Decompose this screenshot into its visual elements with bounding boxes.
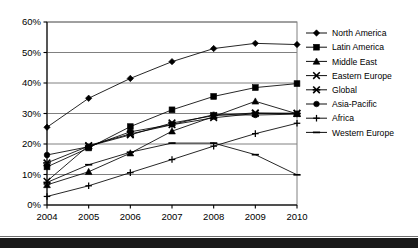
legend-label: Eastern Europe	[332, 71, 392, 81]
x-axis-tick-label: 2009	[245, 211, 266, 222]
data-point-marker	[44, 124, 50, 130]
legend-label: Global	[332, 85, 357, 95]
data-point-marker	[128, 129, 134, 135]
y-axis-tick-label: 10%	[22, 169, 42, 180]
data-point-marker	[313, 87, 321, 94]
data-point-marker	[314, 101, 320, 107]
legend-label: Asia-Pacific	[332, 99, 378, 109]
data-point-marker	[44, 193, 51, 200]
data-point-marker	[169, 156, 176, 163]
data-point-marker	[85, 95, 91, 101]
footer-divider	[0, 236, 418, 237]
legend-label: Latin America	[332, 42, 384, 52]
y-axis-tick-label: 60%	[22, 16, 42, 27]
data-point-marker	[127, 124, 133, 130]
line-chart-figure: 0%10%20%30%40%50%60% 2004200520062007200…	[0, 0, 418, 234]
chart-root: 0%10%20%30%40%50%60% 2004200520062007200…	[0, 0, 418, 248]
data-point-marker	[169, 122, 175, 128]
legend-item-latin-america[interactable]: Latin America	[306, 42, 384, 52]
y-axis-tick-label: 30%	[22, 108, 42, 119]
data-point-marker	[211, 112, 217, 118]
data-point-marker	[294, 41, 300, 47]
y-axis-tick-labels: 0%10%20%30%40%50%60%	[22, 16, 42, 210]
footer-bar	[0, 238, 418, 248]
series-line	[47, 113, 297, 163]
data-point-marker	[253, 112, 259, 118]
data-point-marker	[86, 144, 92, 150]
y-axis-tick-label: 20%	[22, 138, 42, 149]
legend-item-western-europe[interactable]: Western Europe	[306, 128, 394, 138]
legend-item-global[interactable]: Global	[306, 85, 357, 95]
legend-label: Western Europe	[332, 128, 394, 138]
x-axis-tick-label: 2005	[78, 211, 99, 222]
data-series-group	[43, 40, 301, 200]
y-axis-tick-label: 50%	[22, 47, 42, 58]
data-point-marker	[252, 130, 259, 137]
data-point-marker	[169, 107, 175, 113]
data-point-marker	[85, 182, 92, 189]
legend-item-north-america[interactable]: North America	[306, 28, 387, 38]
legend-item-asia-pacific[interactable]: Asia-Pacific	[306, 99, 378, 109]
x-axis-tick-label: 2006	[120, 211, 141, 222]
x-axis-tick-labels: 2004200520062007200820092010	[36, 211, 307, 222]
y-axis-tick-label: 40%	[22, 77, 42, 88]
legend-label: Africa	[332, 113, 354, 123]
series-north-america	[44, 40, 300, 130]
data-point-marker	[294, 111, 300, 117]
data-point-marker	[252, 40, 258, 46]
data-point-marker	[313, 30, 319, 36]
data-point-marker	[294, 81, 300, 87]
legend-label: North America	[332, 28, 387, 38]
x-axis-tick-label: 2010	[286, 211, 307, 222]
data-point-marker	[294, 120, 301, 127]
chart-canvas: 0%10%20%30%40%50%60% 2004200520062007200…	[0, 0, 418, 234]
series-eastern-europe	[44, 110, 301, 185]
data-point-marker	[252, 85, 258, 91]
data-point-marker	[313, 115, 320, 122]
data-point-marker	[252, 98, 259, 104]
y-axis-tick-label: 0%	[27, 199, 41, 210]
data-point-marker	[210, 45, 216, 51]
legend-label: Middle East	[332, 57, 378, 67]
legend-item-africa[interactable]: Africa	[306, 113, 354, 123]
data-point-marker	[127, 75, 133, 81]
data-point-marker	[169, 128, 176, 134]
legend-item-middle-east[interactable]: Middle East	[306, 57, 378, 67]
data-point-marker	[169, 58, 175, 64]
x-axis-tick-label: 2007	[161, 211, 182, 222]
legend: North AmericaLatin AmericaMiddle EastEas…	[306, 28, 394, 137]
x-axis-tick-label: 2004	[36, 211, 57, 222]
data-point-marker	[314, 44, 320, 50]
legend-item-eastern-europe[interactable]: Eastern Europe	[306, 71, 392, 81]
data-point-marker	[211, 94, 217, 100]
x-axis-tick-label: 2008	[203, 211, 224, 222]
data-point-marker	[44, 152, 50, 158]
data-point-marker	[85, 168, 92, 174]
